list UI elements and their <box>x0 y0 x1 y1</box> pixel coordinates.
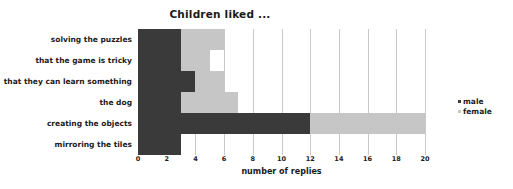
bar-row[interactable] <box>138 113 425 134</box>
bar-row[interactable] <box>138 134 181 155</box>
x-tick-label: 14 <box>334 155 343 163</box>
x-tick-label: 0 <box>136 155 141 163</box>
bar-row[interactable] <box>138 29 224 50</box>
x-tick-label: 4 <box>193 155 198 163</box>
category-label: that they can learn something <box>0 71 132 92</box>
bar-row[interactable] <box>138 50 210 71</box>
legend-label: female <box>463 107 492 116</box>
bar-segment-male[interactable] <box>138 113 310 134</box>
legend-label: male <box>463 97 484 106</box>
plot-area <box>138 29 425 155</box>
bar-segment-female[interactable] <box>181 50 210 71</box>
bar-segment-female[interactable] <box>195 71 224 92</box>
x-tick-label: 18 <box>392 155 401 163</box>
bar-segment-male[interactable] <box>138 50 181 71</box>
legend-swatch-icon <box>458 110 461 113</box>
bar-row[interactable] <box>138 71 224 92</box>
category-label: solving the puzzles <box>0 29 132 50</box>
legend-item[interactable]: female <box>458 107 492 116</box>
chart-title: Children liked ... <box>0 8 440 20</box>
bar-segment-male[interactable] <box>138 71 195 92</box>
x-tick-label: 2 <box>164 155 169 163</box>
x-tick-label: 16 <box>363 155 372 163</box>
bar-segment-female[interactable] <box>181 92 238 113</box>
category-label: that the game is tricky <box>0 50 132 71</box>
bar-segment-male[interactable] <box>138 92 181 113</box>
bar-rows <box>138 29 425 155</box>
bar-segment-male[interactable] <box>138 29 181 50</box>
bar-row[interactable] <box>138 92 238 113</box>
category-label: the dog <box>0 92 132 113</box>
chart-legend: malefemale <box>458 97 492 117</box>
x-axis-title: number of replies <box>138 167 425 176</box>
gridline-20 <box>425 29 426 155</box>
y-axis-category-labels: solving the puzzlesthat the game is tric… <box>0 29 132 155</box>
bar-segment-female[interactable] <box>181 29 224 50</box>
x-tick-label: 20 <box>420 155 429 163</box>
legend-item[interactable]: male <box>458 97 492 106</box>
bar-segment-female[interactable] <box>310 113 425 134</box>
category-label: creating the objects <box>0 113 132 134</box>
bar-segment-male[interactable] <box>138 134 181 155</box>
x-tick-label: 12 <box>306 155 315 163</box>
legend-swatch-icon <box>458 100 461 103</box>
chart-container: Children liked ... solving the puzzlesth… <box>0 0 513 189</box>
x-tick-label: 10 <box>277 155 286 163</box>
category-label: mirroring the tiles <box>0 134 132 155</box>
x-axis-tick-labels: 02468101214161820 <box>138 155 425 167</box>
x-tick-label: 6 <box>222 155 227 163</box>
x-tick-label: 8 <box>251 155 256 163</box>
